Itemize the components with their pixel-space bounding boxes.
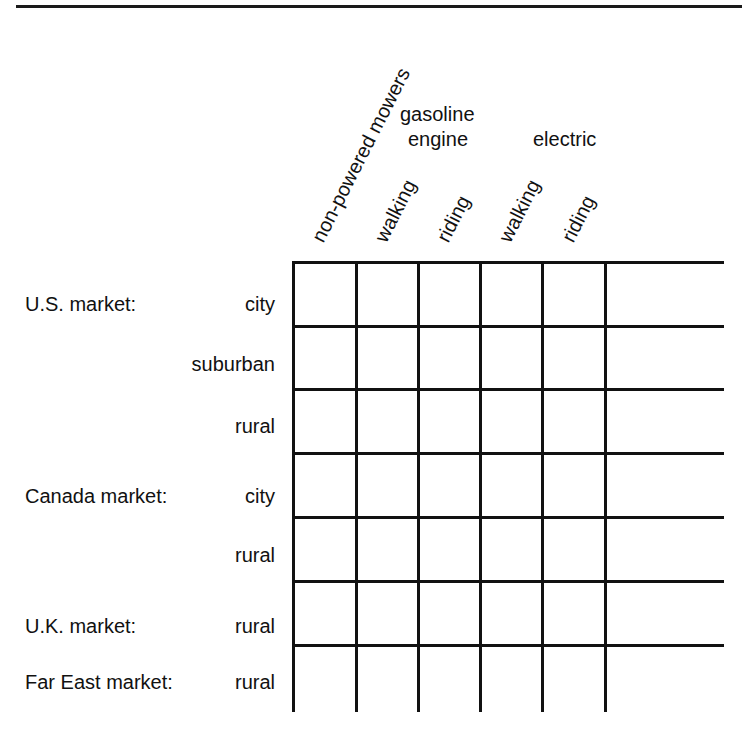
- grid-vline-2: [355, 261, 358, 712]
- group-label-engine: engine: [408, 129, 468, 149]
- column-label-gasoline-riding: riding: [433, 192, 473, 245]
- row-segment-canada-city: city: [245, 486, 275, 506]
- top-rule: [16, 5, 742, 8]
- row-market-far-east: Far East market:: [25, 672, 173, 692]
- row-segment-canada-rural: rural: [235, 545, 275, 565]
- group-label-electric: electric: [533, 129, 596, 149]
- row-market-uk: U.K. market:: [25, 616, 136, 636]
- row-market-us: U.S. market:: [25, 294, 136, 314]
- row-segment-us-city: city: [245, 294, 275, 314]
- row-segment-uk-rural: rural: [235, 616, 275, 636]
- column-label-electric-walking: walking: [495, 176, 543, 245]
- grid-vline-6: [604, 261, 607, 712]
- row-segment-us-rural: rural: [235, 416, 275, 436]
- grid-vline-1: [292, 261, 295, 712]
- grid-vline-3: [417, 261, 420, 712]
- row-segment-us-suburban: suburban: [192, 354, 275, 374]
- column-label-electric-riding: riding: [558, 192, 598, 245]
- row-market-canada: Canada market:: [25, 486, 167, 506]
- grid-vline-4: [479, 261, 482, 712]
- group-label-gasoline: gasoline: [400, 104, 475, 124]
- grid-vline-5: [541, 261, 544, 712]
- column-label-gasoline-walking: walking: [371, 176, 419, 245]
- row-segment-far-east-rural: rural: [235, 672, 275, 692]
